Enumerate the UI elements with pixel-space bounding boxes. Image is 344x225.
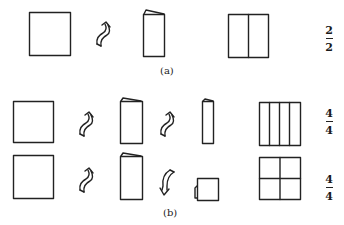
fraction-b-row-2: 4 4: [323, 174, 335, 202]
panel-label-b: (b): [163, 207, 177, 218]
unfolded-four-quadrants: [0, 0, 344, 225]
fraction-bar: [326, 187, 333, 188]
fraction-denominator: 4: [323, 191, 335, 202]
fraction-numerator: 4: [323, 174, 335, 185]
